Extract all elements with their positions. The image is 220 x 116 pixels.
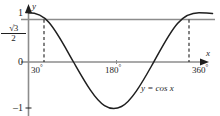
x-tick-label-30-degrees: 30° — [31, 64, 43, 75]
x-tick-30-value: 30 — [31, 65, 40, 75]
x-tick-label-360-degrees: 360° — [192, 64, 208, 75]
y-tick-label-one: 1 — [18, 8, 23, 18]
degree-symbol-icon: ° — [40, 63, 43, 71]
cosine-graph-figure: y x 1 √3 2 0 –1 30° 180° 360° y = cos x — [0, 0, 220, 116]
degree-symbol-icon: ° — [119, 63, 122, 71]
x-tick-180-value: 180 — [105, 65, 119, 75]
cosine-curve — [29, 13, 213, 109]
y-axis-label: y — [32, 2, 36, 11]
x-tick-label-180-degrees: 180° — [105, 64, 121, 75]
x-axis-label: x — [206, 49, 210, 58]
y-tick-label-sqrt3-over-2: √3 2 — [1, 24, 26, 44]
y-axis-arrow-icon — [25, 4, 32, 13]
y-tick-label-negative-one: –1 — [13, 103, 23, 113]
x-tick-360-value: 360 — [192, 65, 206, 75]
y-tick-label-zero: 0 — [18, 57, 23, 67]
degree-symbol-icon: ° — [206, 63, 209, 71]
curve-equation-annotation: y = cos x — [141, 84, 174, 93]
fraction-denominator: 2 — [1, 34, 26, 44]
plot-area — [0, 0, 220, 116]
